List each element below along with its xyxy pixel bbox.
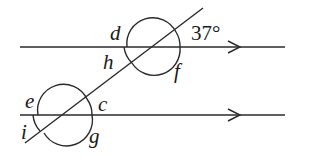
arc-c bbox=[87, 99, 92, 115]
label-37-degrees: 37° bbox=[191, 21, 220, 45]
label-e: e bbox=[25, 89, 34, 113]
label-f: f bbox=[174, 59, 183, 83]
label-d: d bbox=[110, 21, 121, 45]
arc-f bbox=[132, 47, 180, 75]
arc-h bbox=[124, 47, 132, 63]
parallel-lines-diagram: d h f 37° e c i g bbox=[0, 0, 309, 163]
arc-37 bbox=[176, 32, 180, 47]
label-g: g bbox=[89, 124, 100, 148]
label-c: c bbox=[98, 92, 108, 116]
arc-g bbox=[44, 115, 92, 146]
arc-d bbox=[127, 18, 176, 47]
arc-e bbox=[38, 84, 87, 115]
label-h: h bbox=[103, 50, 114, 74]
label-i: i bbox=[21, 120, 27, 144]
arc-i bbox=[33, 115, 40, 131]
